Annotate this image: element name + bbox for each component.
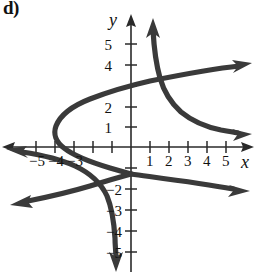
x-axis-label: x [240,152,249,172]
x-tick-label--3: −3 [67,153,83,169]
y-tick-label-2: 2 [105,100,113,116]
y-tick-label--2: −2 [106,182,122,198]
x-tick-label-1: 1 [146,153,154,169]
x-tick-label-2: 2 [165,153,173,169]
x-tick-label--4: −4 [48,153,64,169]
y-axis-label: y [107,10,117,30]
x-axis [2,142,254,152]
x-tick-label--5: −5 [29,153,45,169]
graph-plot: x y −5 −4 −3 1 2 3 4 5 5 4 2 1 −2 −3 −4 … [0,0,261,278]
hyperbola-upper-path [153,30,238,133]
y-tick-label--4: −4 [106,224,122,240]
x-tick-label-4: 4 [203,153,211,169]
y-tick-label-4: 4 [105,58,113,74]
y-tick-label--3: −3 [106,203,122,219]
y-tick-label--5: −5 [106,245,122,261]
y-tick-label-5: 5 [105,37,113,53]
x-tick-labels: −5 −4 −3 1 2 3 4 5 [29,153,230,169]
x-tick-label-5: 5 [222,153,230,169]
y-axis [126,14,136,272]
y-tick-label-1: 1 [105,120,113,136]
line-right-path [131,174,233,189]
y-tick-labels: 5 4 2 1 −2 −3 −4 −5 [105,37,123,261]
curve-hyperbola-upper-right [146,18,252,141]
figure-container: d) [0,0,261,278]
curve-line-right-descending [131,174,250,197]
x-tick-label-3: 3 [184,153,192,169]
